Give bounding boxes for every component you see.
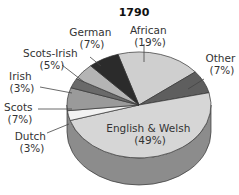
label-german-pct: (7%) (80, 38, 105, 50)
label-irish-name: Irish (9, 70, 31, 82)
label-german-name: German (69, 26, 111, 38)
label-african-pct: (19%) (134, 36, 166, 48)
label-other: Other (7%) (205, 52, 238, 76)
label-english-pct: (49%) (134, 134, 166, 146)
leader-dutch (47, 124, 69, 133)
label-dutch: Dutch (3%) (15, 130, 50, 154)
label-scotsirish-name: Scots-Irish (23, 47, 78, 59)
label-scotsirish-pct: (5%) (40, 59, 65, 71)
label-african-name: African (130, 24, 167, 36)
label-african: African (19%) (130, 24, 170, 48)
label-other-name: Other (205, 52, 235, 64)
label-scots-name: Scots (4, 101, 32, 113)
label-scotsirish: Scots-Irish (5%) (23, 47, 81, 71)
pie-chart: 1790 African (19%) German (7%) Scots-Iri… (0, 0, 239, 195)
label-scots: Scots (7%) (4, 101, 36, 125)
label-dutch-name: Dutch (15, 130, 46, 142)
label-irish-pct: (3%) (10, 82, 35, 94)
chart-title: 1790 (119, 6, 150, 19)
label-other-pct: (7%) (210, 64, 235, 76)
label-english-name: English & Welsh (106, 122, 190, 134)
leader-irish (40, 87, 72, 93)
label-irish: Irish (3%) (9, 70, 35, 94)
label-scots-pct: (7%) (8, 113, 33, 125)
label-dutch-pct: (3%) (20, 142, 45, 154)
